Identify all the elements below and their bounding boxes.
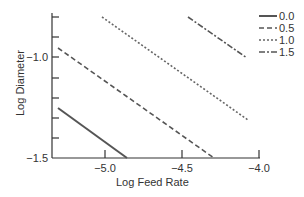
legend-label: 0.0 (279, 10, 294, 22)
y-axis-title: Log Diameter (14, 50, 26, 116)
x-tick-label: −4.5 (171, 162, 193, 174)
x-tick-label: −4.0 (248, 162, 270, 174)
legend-label: 0.5 (279, 22, 294, 34)
series-0.0-line (58, 108, 127, 158)
y-tick-label: −1.0 (26, 51, 48, 63)
y-tick-label: −1.5 (26, 152, 48, 164)
series-0.5-line (58, 48, 214, 158)
x-tick-label: −5.0 (94, 162, 116, 174)
series-1.0-line (102, 17, 248, 120)
chart: −1.0 −1.5 −5.0 −4.5 −4.0 Log Feed Rate L… (0, 0, 304, 197)
legend: 0.0 0.5 1.0 1.5 (259, 10, 294, 58)
legend-label: 1.5 (279, 46, 294, 58)
legend-label: 1.0 (279, 34, 294, 46)
y-axis (52, 13, 59, 158)
x-axis (52, 150, 260, 158)
x-axis-title: Log Feed Rate (116, 176, 189, 188)
series-1.5-line (188, 17, 247, 58)
